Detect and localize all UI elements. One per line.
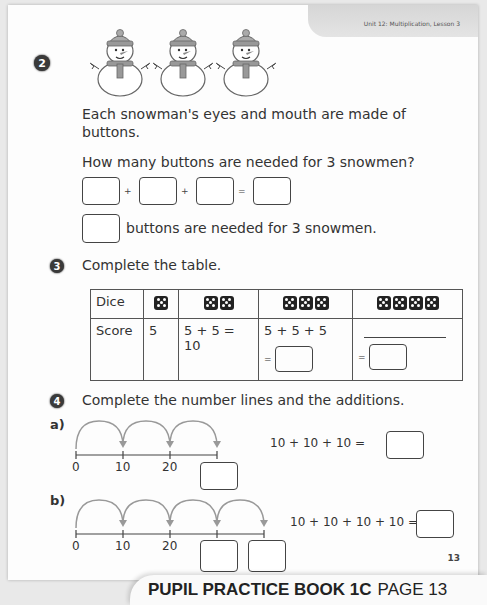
score-cell-1: 5 — [144, 319, 179, 381]
plus-sign: + — [181, 186, 189, 196]
row-header-score: Score — [91, 319, 144, 381]
number-line-b-answer-box-1[interactable] — [200, 540, 238, 572]
equation-a-answer-box[interactable] — [386, 431, 424, 459]
score-answer-box-4[interactable] — [369, 344, 407, 370]
page-number: 13 — [447, 553, 460, 563]
die-five-icon — [283, 296, 297, 310]
number-line-b — [74, 496, 270, 542]
score-expression-3: 5 + 5 + 5 — [264, 323, 347, 338]
die-five-icon — [315, 296, 329, 310]
tick-label-20: 20 — [162, 460, 177, 474]
die-five-icon — [393, 296, 407, 310]
dice-cell-3 — [259, 290, 353, 319]
footer-banner: PUPIL PRACTICE BOOK 1CPAGE 13 — [130, 575, 487, 605]
answer-box-total[interactable] — [253, 177, 291, 205]
dice-cell-1 — [144, 290, 179, 319]
answer-box-3[interactable] — [196, 177, 234, 205]
score-cell-4: = — [353, 319, 463, 381]
dice-cell-4 — [353, 290, 463, 319]
number-line-a-answer-box[interactable] — [200, 462, 238, 490]
score-blank-line-4[interactable] — [364, 325, 446, 338]
tick-label-10: 10 — [115, 539, 130, 553]
equals-sign: = — [238, 186, 246, 196]
dice-score-table: Dice Score 5 5 + 5 = 10 5 + 5 + 5 = — [90, 289, 463, 381]
equals-sign: = — [264, 354, 272, 364]
dice-cell-2 — [179, 290, 259, 319]
tick-label-20: 20 — [162, 539, 177, 553]
part-a-label: a) — [50, 417, 65, 432]
q2-question: How many buttons are needed for 3 snowme… — [82, 154, 415, 170]
score-cell-3: 5 + 5 + 5 = — [259, 319, 353, 381]
q2-text-line2: buttons. — [82, 124, 140, 140]
score-cell-2: 5 + 5 = 10 — [179, 319, 259, 381]
answer-box-buttons[interactable] — [82, 214, 120, 243]
plus-sign: + — [124, 186, 132, 196]
question-number-badge: 2 — [34, 55, 50, 71]
question-number-badge: 3 — [50, 259, 64, 273]
worksheet-page: Unit 12: Multiplication, Lesson 3 2 — [8, 5, 478, 580]
die-five-icon — [220, 296, 234, 310]
snowmen-illustration — [90, 27, 276, 99]
die-five-icon — [299, 296, 313, 310]
header-tab: Unit 12: Multiplication, Lesson 3 — [308, 5, 478, 37]
tick-label-0: 0 — [72, 539, 80, 553]
part-b-label: b) — [50, 493, 65, 508]
die-five-icon — [377, 296, 391, 310]
q2-answer-sentence: buttons are needed for 3 snowmen. — [126, 220, 377, 236]
question-number-badge: 4 — [50, 394, 64, 408]
equation-b-answer-box[interactable] — [416, 510, 454, 538]
row-header-dice: Dice — [91, 290, 144, 319]
footer-page: PAGE 13 — [378, 580, 448, 599]
q3-instruction: Complete the table. — [82, 257, 221, 273]
score-answer-box-3[interactable] — [275, 346, 313, 372]
tick-label-10: 10 — [115, 460, 130, 474]
unit-title: Unit 12: Multiplication, Lesson 3 — [364, 20, 460, 27]
equation-a: 10 + 10 + 10 = — [270, 436, 365, 450]
footer-book: PUPIL PRACTICE BOOK 1C — [148, 580, 372, 599]
equation-b: 10 + 10 + 10 + 10 = — [290, 515, 418, 529]
q4-instruction: Complete the number lines and the additi… — [82, 392, 404, 408]
tick-label-0: 0 — [72, 460, 80, 474]
die-five-icon — [409, 296, 423, 310]
equals-sign: = — [358, 352, 366, 362]
answer-box-1[interactable] — [82, 177, 120, 205]
number-line-a — [74, 417, 224, 463]
die-five-icon — [425, 296, 439, 310]
answer-box-2[interactable] — [139, 177, 177, 205]
number-line-b-answer-box-2[interactable] — [248, 540, 286, 572]
die-five-icon — [154, 296, 168, 310]
die-five-icon — [204, 296, 218, 310]
q2-text-line1: Each snowman's eyes and mouth are made o… — [82, 106, 406, 122]
footer-title: PUPIL PRACTICE BOOK 1CPAGE 13 — [148, 580, 447, 600]
